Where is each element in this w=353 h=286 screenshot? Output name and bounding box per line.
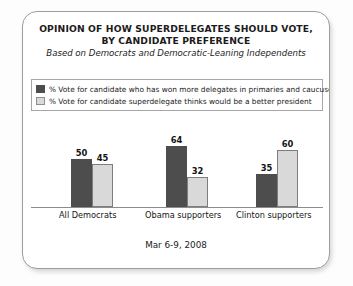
bar-wrap-clinton-delegates: 35 [256, 122, 277, 207]
bar-all-democrats-delegates [71, 159, 92, 207]
bar-obama-better-president [187, 177, 208, 208]
legend-label-delegates: % Vote for candidate who has won more de… [49, 85, 330, 94]
light-swatch-icon [36, 97, 45, 105]
bar-value-label: 32 [192, 166, 204, 176]
bar-value-label: 64 [171, 135, 183, 145]
bar-clinton-better-president [277, 150, 298, 207]
legend-item-better-president: % Vote for candidate superdelegate think… [36, 95, 318, 107]
bar-wrap-obama-delegates: 64 [166, 122, 187, 207]
bar-value-label: 45 [97, 153, 109, 163]
chart-page: OPINION OF HOW SUPERDELEGATES SHOULD VOT… [0, 0, 353, 286]
chart-legend: % Vote for candidate who has won more de… [31, 79, 323, 111]
legend-label-better-president: % Vote for candidate superdelegate think… [49, 97, 312, 106]
chart-subtitle: Based on Democrats and Democratic-Leanin… [23, 47, 329, 60]
bar-group-obama-supporters: 64 32 [162, 122, 212, 207]
bar-wrap-all-democrats-better-president: 45 [92, 122, 113, 207]
dark-swatch-icon [36, 85, 45, 93]
bar-value-label: 35 [261, 163, 273, 173]
bar-group-clinton-supporters: 35 60 [252, 122, 302, 207]
bar-clinton-delegates [256, 174, 277, 207]
bar-all-democrats-better-president [92, 164, 113, 207]
bar-wrap-clinton-better-president: 60 [277, 122, 298, 207]
chart-card: OPINION OF HOW SUPERDELEGATES SHOULD VOT… [22, 11, 330, 269]
chart-title-line-1: OPINION OF HOW SUPERDELEGATES SHOULD VOT… [23, 23, 329, 35]
bar-group-all-democrats: 50 45 [67, 122, 117, 207]
chart-title-line-2: BY CANDIDATE PREFERENCE [23, 35, 329, 47]
bar-wrap-all-democrats-delegates: 50 [71, 122, 92, 207]
chart-title-block: OPINION OF HOW SUPERDELEGATES SHOULD VOT… [23, 12, 329, 60]
axis-baseline [31, 207, 323, 208]
bar-value-label: 50 [76, 148, 88, 158]
category-label-obama-supporters: Obama supporters [145, 210, 213, 220]
category-label-clinton-supporters: Clinton supporters [236, 210, 304, 220]
plot-area: 50 45 64 32 35 [31, 122, 323, 207]
category-label-all-democrats: All Democrats [59, 210, 109, 220]
legend-item-delegates: % Vote for candidate who has won more de… [36, 83, 318, 95]
bar-value-label: 60 [282, 139, 294, 149]
bar-wrap-obama-better-president: 32 [187, 122, 208, 207]
bar-obama-delegates [166, 146, 187, 207]
chart-footer-date: Mar 6-9, 2008 [23, 240, 329, 250]
